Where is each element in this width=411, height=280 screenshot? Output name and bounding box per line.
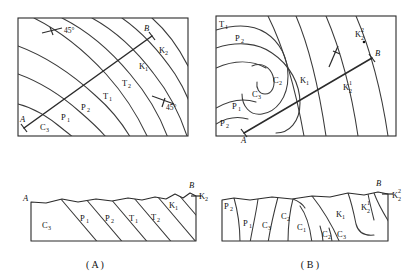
map-a-unit-K1: K 1 [139, 61, 148, 72]
unit-sub: 2 [230, 206, 233, 212]
section-line-ab [24, 36, 152, 128]
panel-caption-b: ( B ) [301, 259, 319, 271]
unit-sub: 1 [238, 106, 241, 112]
section-b-unit-P2: P 2 [224, 201, 233, 212]
section-b-unit-K2-sup1: K 2 1 [361, 200, 370, 214]
panel-caption-a: ( A ) [86, 259, 104, 271]
outcrop-dot [363, 41, 366, 44]
unit-sub: 2 [111, 218, 114, 224]
section-a-unit-P2: P 2 [105, 213, 114, 224]
unit-sub: 1 [249, 223, 252, 229]
map-b-unit-P2-upper: P 2 [235, 33, 244, 44]
unit-sub: 1 [342, 214, 345, 220]
map-a-unit-T2: T 2 [122, 78, 131, 89]
section-tick-b [149, 32, 155, 40]
map-a-unit-T1: T 1 [103, 91, 112, 102]
dip-angle-label-upper: 45° [64, 26, 75, 35]
section-a-unit-K2: K 2 [199, 191, 208, 202]
geologic-map-figure: 45° 45° A B C 3 P 1 P 2 T 1 T 2 [0, 0, 411, 280]
unit-base: P [224, 201, 229, 211]
unit-sub: 2 [367, 208, 370, 214]
unit-sub: 1 [67, 117, 70, 123]
unit-sup: 1 [367, 200, 370, 206]
unit-sub: 2 [287, 216, 290, 222]
section-contact [293, 199, 305, 208]
map-a-unit-P2: P 2 [81, 102, 90, 113]
section-contact [234, 198, 240, 243]
unit-sub: 1 [303, 227, 306, 233]
unit-sub: 3 [46, 127, 49, 133]
section-contact [250, 199, 258, 243]
section-b-unit-C2-left: C 2 [281, 211, 290, 222]
unit-sub: 1 [225, 24, 228, 30]
unit-sub: 2 [349, 88, 352, 94]
unit-base: P [80, 213, 85, 223]
unit-sub: 2 [87, 107, 90, 113]
section-b-endpoint-b: B [376, 178, 381, 188]
unit-sub: 3 [48, 225, 51, 231]
section-a-group: A B C 3 P 1 P 2 T 1 T 2 K 1 K 2 [22, 180, 208, 245]
unit-sub: 3 [258, 94, 261, 100]
map-a-frame [18, 18, 188, 136]
unit-sup: 2 [398, 188, 401, 194]
unit-sub: 1 [306, 80, 309, 86]
unit-sub: 2 [128, 83, 131, 89]
section-a-endpoint-b: B [189, 180, 194, 190]
unit-sub: 1 [109, 96, 112, 102]
map-b-unit-C3: C 3 [252, 89, 261, 100]
map-b-unit-T1: T 1 [219, 19, 228, 30]
section-b-group: B P 2 P 1 C 3 C 2 C 1 C 2 C 3 [222, 178, 401, 243]
unit-sub: 2 [165, 50, 168, 56]
section-b-unit-C1: C 1 [297, 222, 306, 233]
unit-sub: 1 [175, 205, 178, 211]
section-b-unit-C3-right: C 3 [337, 229, 346, 240]
section-b-unit-K1: K 1 [336, 209, 345, 220]
section-contact [268, 197, 278, 243]
section-a-unit-P1: P 1 [80, 213, 89, 224]
section-contact [157, 196, 197, 243]
unit-sub: 2 [205, 196, 208, 202]
map-b-unit-P2-lower: P 2 [220, 118, 229, 129]
section-a-endpoint-a: A [22, 193, 29, 203]
unit-sup: 1 [349, 80, 352, 86]
unit-base: P [61, 112, 66, 122]
unit-sub: 3 [343, 234, 346, 240]
unit-sub: 2 [398, 196, 401, 202]
section-a-unit-T1: T 1 [129, 213, 138, 224]
unit-sub: 1 [145, 66, 148, 72]
unit-sub: 1 [86, 218, 89, 224]
map-a-endpoint-b: B [144, 23, 149, 33]
unit-base: P [235, 33, 240, 43]
section-a-unit-C3: C 3 [42, 220, 51, 231]
map-b-unit-K2-sup1: K 2 1 [343, 80, 352, 94]
bed-trace [18, 46, 132, 140]
unit-sub: 3 [268, 225, 271, 231]
unit-sub: 2 [361, 35, 364, 41]
section-contact [374, 193, 389, 222]
bed-trace [18, 74, 110, 142]
unit-sub: 2 [157, 217, 160, 223]
section-a-unit-K1: K 1 [169, 200, 178, 211]
map-b-group: A B T 1 P 2 C 2 C 3 P 1 P 2 K 1 [216, 16, 396, 145]
bed-trace [152, 18, 188, 66]
map-a-unit-P1: P 1 [61, 112, 70, 123]
unit-sub: 2 [226, 123, 229, 129]
map-b-unit-K1: K 1 [300, 75, 309, 86]
map-a-endpoint-a: A [19, 114, 26, 124]
unit-sub: 2 [241, 38, 244, 44]
section-b-unit-K2-sup2: K 2 2 [392, 188, 401, 202]
map-b-endpoint-a: A [240, 135, 247, 145]
section-contact [348, 193, 374, 235]
unit-base: P [105, 213, 110, 223]
dip-angle-label-lower: 45° [166, 103, 177, 112]
unit-sub: 2 [328, 234, 331, 240]
unit-base: P [220, 118, 225, 128]
unit-base: P [243, 218, 248, 228]
section-a-unit-T2: T 2 [151, 212, 160, 223]
map-b-unit-C2: C 2 [273, 75, 282, 86]
map-b-unit-P1: P 1 [232, 101, 241, 112]
bed-trace [122, 18, 192, 110]
map-a-unit-K2: K 2 [159, 45, 168, 56]
map-b-endpoint-b: B [375, 48, 380, 58]
map-a-unit-C3: C 3 [40, 122, 49, 133]
